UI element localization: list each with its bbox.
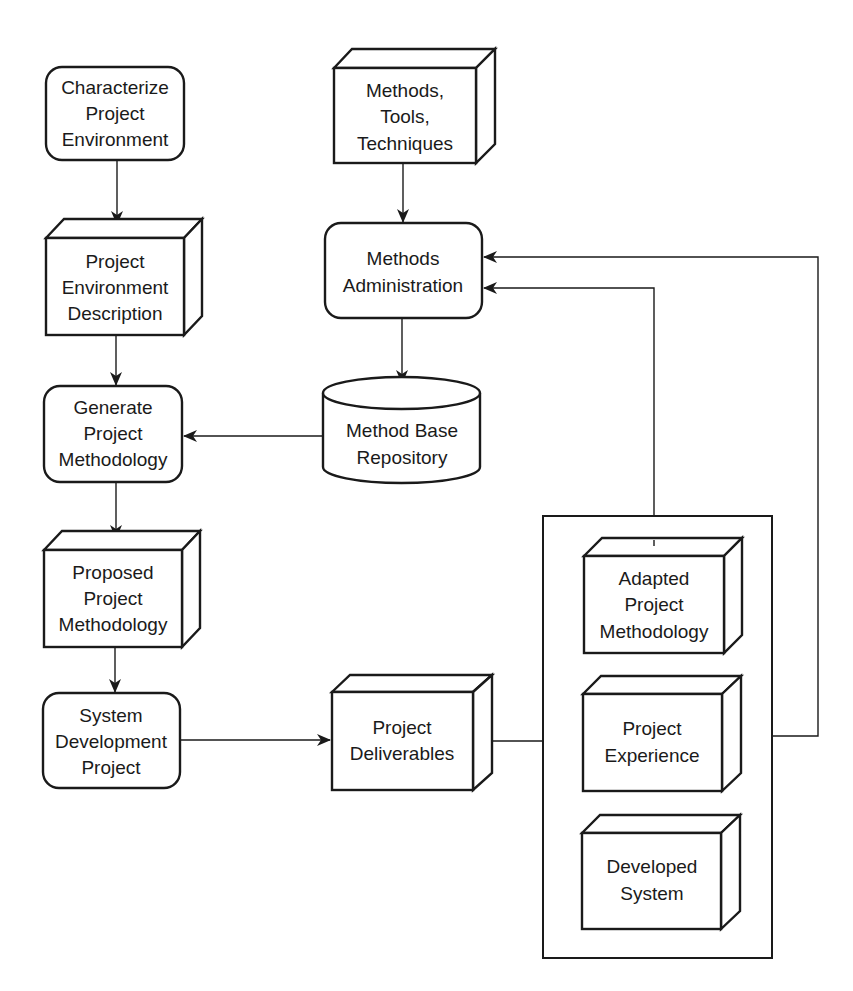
node-label: Project [372,717,432,738]
node-label: Experience [604,745,699,766]
node-label: Project [81,757,141,778]
node-generate-project-methodology[interactable]: Generate Project Methodology [44,386,182,482]
node-label: Methods, [366,80,444,101]
node-developed-system[interactable]: Developed System [582,815,740,929]
node-label: Project [83,423,143,444]
node-system-development-project[interactable]: System Development Project [43,693,180,788]
node-label: Project [85,103,145,124]
node-label: Methods [367,248,440,269]
node-method-base-repository[interactable]: Method Base Repository [323,377,480,483]
node-label: Project [83,588,143,609]
node-label: Environment [62,277,169,298]
node-project-experience[interactable]: Project Experience [583,676,741,791]
node-project-environment-description[interactable]: Project Environment Description [46,219,202,335]
node-label: Administration [343,275,463,296]
node-label: Adapted [619,568,690,589]
node-label: System [79,705,142,726]
node-label: Environment [62,129,169,150]
node-label: Deliverables [350,743,455,764]
node-characterize-project-environment[interactable]: Characterize Project Environment [46,67,184,160]
node-label: Project [622,718,682,739]
node-methods-administration[interactable]: Methods Administration [325,223,482,318]
node-label: Characterize [61,77,169,98]
node-label: Developed [607,856,698,877]
node-label: Method Base [346,420,458,441]
node-label: Generate [73,397,152,418]
node-label: Methodology [59,614,168,635]
node-label: Tools, [380,106,430,127]
node-methods-tools-techniques[interactable]: Methods, Tools, Techniques [334,49,495,163]
edge-adapted-to-admin [484,288,654,546]
node-label: Repository [357,447,448,468]
methodology-diagram: Characterize Project Environment Project… [0,0,853,991]
node-label: Methodology [600,621,709,642]
node-label: System [620,883,683,904]
node-label: Description [67,303,162,324]
node-proposed-project-methodology[interactable]: Proposed Project Methodology [44,531,200,647]
node-label: Proposed [72,562,153,583]
node-project-deliverables[interactable]: Project Deliverables [332,675,492,790]
node-adapted-project-methodology[interactable]: Adapted Project Methodology [584,538,742,653]
node-label: Project [624,594,684,615]
node-label: Methodology [59,449,168,470]
node-label: Project [85,251,145,272]
node-label: Techniques [357,133,453,154]
node-label: Development [55,731,168,752]
